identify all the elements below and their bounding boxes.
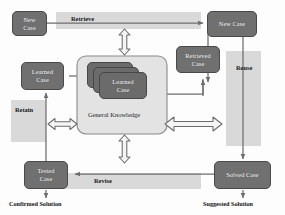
node-retrieved-case-label: Retrieved Case xyxy=(185,52,210,67)
label-revise: Revise xyxy=(94,177,112,185)
node-new-case-right: New Case xyxy=(207,11,257,37)
node-learned-case-left-label: Learned Case xyxy=(32,68,53,83)
label-retrieve: Retrieve xyxy=(71,15,94,23)
label-confirmed-solution: Confirmed Solution xyxy=(9,200,61,208)
label-retain: Retain xyxy=(15,106,33,114)
node-solved-case-label: Solved Case xyxy=(226,171,258,179)
node-new-case-right-label: New Case xyxy=(219,20,245,28)
label-suggested-solution: Suggested Solution xyxy=(203,200,253,208)
node-tested-case: Tested Case xyxy=(24,161,68,189)
arrow-right-horizontal xyxy=(165,117,222,131)
stacked-case-label: Learned Case xyxy=(112,78,133,93)
arrow-bottom-vertical xyxy=(119,135,130,163)
arrow-left-horizontal xyxy=(48,119,77,130)
general-knowledge-label: General Knowledge xyxy=(88,111,140,119)
cbr-cycle-diagram: right to New Case (right) --> right into… xyxy=(0,0,285,215)
node-learned-case-left: Learned Case xyxy=(21,62,64,90)
node-tested-case-label: Tested Case xyxy=(38,167,55,182)
node-new-case-left: New Case xyxy=(12,11,47,36)
arrow-top-vertical xyxy=(119,29,130,55)
stacked-case-front: Learned Case xyxy=(99,72,147,99)
node-new-case-left-label: New Case xyxy=(23,16,36,31)
label-reuse: Reuse xyxy=(236,64,252,72)
node-retrieved-case: Retrieved Case xyxy=(176,46,220,73)
node-solved-case: Solved Case xyxy=(214,161,271,189)
